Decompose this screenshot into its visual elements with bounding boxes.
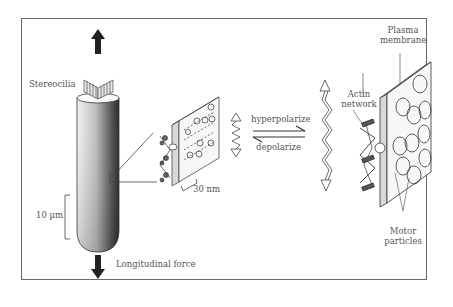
label-scale-30nm: 30 nm <box>193 185 220 195</box>
compressed-motor-arrow-icon <box>231 113 241 157</box>
force-arrow-down-icon <box>91 255 105 279</box>
force-arrow-up-icon <box>91 29 105 54</box>
label-scale-10um: 10 µm <box>36 211 63 221</box>
diagram-canvas <box>0 0 453 307</box>
label-depolarize: depolarize <box>256 143 301 153</box>
label-longitudinal-force: Longitudinal force <box>116 260 196 270</box>
label-plasma-membrane: Plasma membrane <box>380 26 426 46</box>
label-actin-line2: network <box>341 100 377 110</box>
label-hyperpolarize: hyperpolarize <box>251 115 310 125</box>
membrane-panel-large <box>360 62 431 207</box>
scale-bar-10um <box>65 195 70 239</box>
label-stereocilia: Stereocilia <box>29 80 75 90</box>
membrane-panel-small <box>160 97 219 186</box>
label-actin-network: Actin network <box>341 90 377 110</box>
label-motor-particles: Motor particles <box>380 227 426 247</box>
equilibrium-arrows-icon <box>253 126 305 142</box>
extended-motor-arrow-icon <box>320 80 332 191</box>
stereocilium-cylinder <box>77 93 119 252</box>
label-motor-line2: particles <box>380 237 426 247</box>
label-plasma-line2: membrane <box>380 36 426 46</box>
